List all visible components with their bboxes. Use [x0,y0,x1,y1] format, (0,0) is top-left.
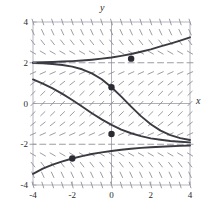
y-axis-label: y [100,2,104,13]
x-tick-label: -4 [29,190,37,200]
y-tick-label: -2 [21,139,29,149]
x-tick-label: -2 [69,190,77,200]
y-tick-label: -4 [21,180,29,190]
x-tick-label: 2 [149,190,154,200]
marked-point-2 [108,131,114,137]
marked-point-3 [69,155,75,161]
marked-point-1 [108,84,114,90]
plot-canvas: -4-2024-4-2024 [0,0,212,210]
x-tick-label: 0 [109,190,114,200]
slope-field-figure: -4-2024-4-2024 y x [0,0,212,210]
y-tick-label: 2 [24,58,29,68]
x-axis-label: x [196,95,200,106]
marked-point-0 [128,55,134,61]
y-tick-label: 4 [24,17,29,27]
x-tick-label: 4 [188,190,193,200]
y-tick-label: 0 [24,99,29,109]
